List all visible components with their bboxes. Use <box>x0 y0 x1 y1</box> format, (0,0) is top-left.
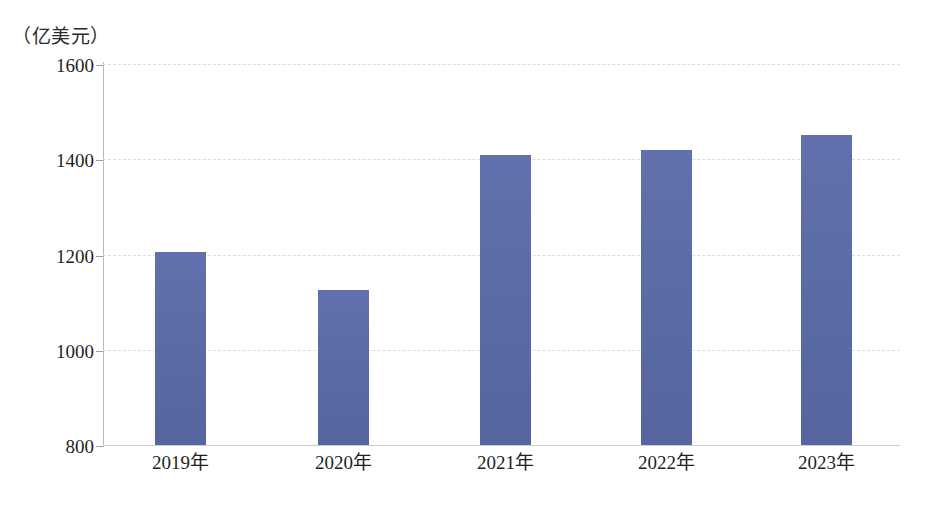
x-tick-label-2020: 2020年 <box>264 453 424 472</box>
tick-mark-1200 <box>96 256 103 257</box>
y-tick-label-1000: 1000 <box>16 342 94 361</box>
bar-2021[interactable] <box>480 155 531 446</box>
gridline-800-baseline: 800 <box>103 445 900 446</box>
bar-2020[interactable] <box>318 290 369 445</box>
plot-area: 1600 1400 1200 1000 800 2019年 2020年 2021… <box>103 64 900 445</box>
bar-2019[interactable] <box>155 252 206 445</box>
x-tick-label-2019: 2019年 <box>101 453 261 472</box>
x-tick-label-2023: 2023年 <box>747 453 907 472</box>
y-tick-label-1200: 1200 <box>16 247 94 266</box>
tick-mark-800 <box>96 446 103 447</box>
y-axis-unit-label: （亿美元） <box>12 24 110 48</box>
y-tick-label-1600: 1600 <box>16 56 94 75</box>
x-tick-label-2022: 2022年 <box>587 453 747 472</box>
x-tick-label-2021: 2021年 <box>426 453 586 472</box>
y-tick-label-1400: 1400 <box>16 151 94 170</box>
y-tick-label-800: 800 <box>16 437 94 456</box>
bar-chart-figure: （亿美元） 1600 1400 1200 1000 800 <box>0 0 937 509</box>
gridline-1600: 1600 <box>103 64 900 65</box>
bar-2023[interactable] <box>801 135 852 445</box>
tick-mark-1600 <box>96 65 103 66</box>
bar-2022[interactable] <box>641 150 692 445</box>
tick-mark-1000 <box>96 351 103 352</box>
tick-mark-1400 <box>96 160 103 161</box>
